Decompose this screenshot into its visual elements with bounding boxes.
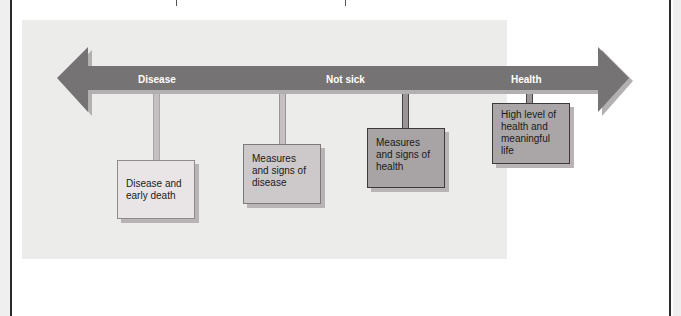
continuum-arrow: Disease Not sick Health	[0, 0, 681, 316]
box-measures-health: Measures and signs of health	[367, 128, 445, 188]
label-health: Health	[511, 74, 542, 85]
box-text: Measures and signs of disease	[252, 153, 312, 189]
label-disease: Disease	[138, 74, 176, 85]
box-high-level-health: High level of health and meaningful life	[492, 103, 570, 164]
box-disease-early-death: Disease and early death	[117, 160, 195, 219]
box-text: Measures and signs of health	[376, 137, 436, 173]
label-not-sick: Not sick	[326, 74, 365, 85]
box-measures-disease: Measures and signs of disease	[243, 144, 321, 204]
box-text: Disease and early death	[126, 178, 186, 202]
box-text: High level of health and meaningful life	[501, 109, 561, 157]
